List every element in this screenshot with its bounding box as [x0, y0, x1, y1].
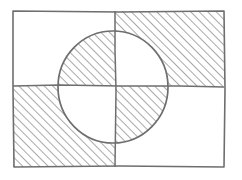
- region-top-right-outside: [115, 11, 224, 86]
- quadrant-circle-diagram: [0, 0, 242, 180]
- sketch-canvas: [0, 0, 242, 180]
- region-bottom-left-outside: [13, 86, 115, 167]
